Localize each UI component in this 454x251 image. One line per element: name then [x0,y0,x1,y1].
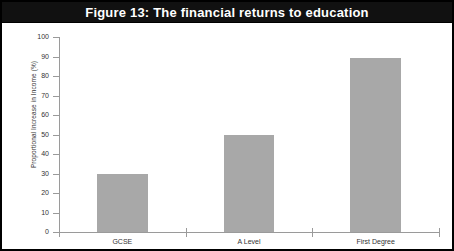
y-axis-tick [53,115,60,116]
y-axis-tick-label: 10 [16,209,49,216]
y-axis-tick-label: 30 [16,170,49,177]
y-axis-tick-label: 90 [16,53,49,60]
y-axis-tick-label: 0 [16,228,49,235]
figure-title-band: Figure 13: The financial returns to educ… [2,2,452,23]
y-axis-tick [53,193,60,194]
y-axis-tick-label: 70 [16,92,49,99]
y-axis-tick [53,174,60,175]
y-axis-tick-label: 60 [16,111,49,118]
x-axis-tick [59,228,60,237]
x-axis-tick-label: First Degree [316,238,436,245]
x-axis-tick [186,228,187,237]
bar [224,135,275,233]
y-axis-tick-label: 40 [16,150,49,157]
y-axis-tick [53,135,60,136]
x-axis-line [59,232,439,233]
figure-title: Figure 13: The financial returns to educ… [85,5,369,20]
y-axis-tick [53,57,60,58]
x-axis-tick [312,228,313,237]
y-axis-tick-label: 80 [16,72,49,79]
y-axis-tick [53,76,60,77]
chart-plot-area: Proportional Increase in Income (%) 0102… [2,23,452,249]
y-axis-tick [53,96,60,97]
y-axis-tick-label: 20 [16,189,49,196]
y-axis-tick-label: 100 [16,33,49,40]
x-axis-tick-label: GCSE [62,238,182,245]
x-axis-tick [439,228,440,237]
y-axis-tick [53,213,60,214]
bar [97,174,148,233]
y-axis-tick [53,154,60,155]
bar [350,58,401,232]
x-axis-tick-label: A Level [189,238,309,245]
figure-container: Figure 13: The financial returns to educ… [0,0,454,251]
y-axis-tick [53,37,60,38]
y-axis-tick-label: 50 [16,131,49,138]
